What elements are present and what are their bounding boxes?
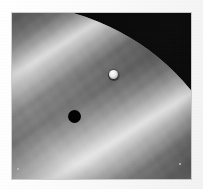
photograph-frame: Grayscale close-up photograph of Jupiter… bbox=[0, 0, 203, 189]
plate-speck-left bbox=[17, 168, 19, 170]
astronomical-image-plate bbox=[12, 13, 191, 179]
plate-speck-right bbox=[179, 163, 181, 165]
moon-shadow bbox=[68, 110, 81, 123]
planet-disc-jupiter bbox=[12, 13, 191, 179]
moon-disc bbox=[109, 70, 118, 79]
